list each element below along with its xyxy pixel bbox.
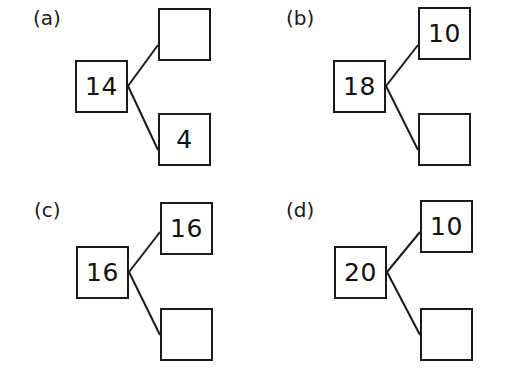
bond-child-top-value-c: 16 [170,216,203,241]
number-bond-panel-b: (b) 18 10 [253,0,505,190]
bond-child-top-box-a[interactable] [158,8,211,61]
bond-child-bottom-box-d[interactable] [420,308,473,361]
bond-child-bottom-box-b[interactable] [418,113,471,166]
bond-parent-box-b[interactable]: 18 [333,60,386,113]
bond-parent-value-b: 18 [343,74,376,99]
bond-child-top-box-c[interactable]: 16 [160,202,213,255]
bond-child-bottom-box-c[interactable] [160,308,213,361]
bond-child-top-value-b: 10 [428,21,461,46]
number-bond-panel-c: (c) 16 16 [0,190,252,379]
bond-parent-box-c[interactable]: 16 [76,246,129,299]
bond-parent-value-d: 20 [344,260,377,285]
bond-child-top-value-d: 10 [430,214,463,239]
bond-parent-value-a: 14 [85,74,118,99]
bond-child-top-box-b[interactable]: 10 [418,7,471,60]
worksheet-canvas: (a) 14 4 (b) 18 10 (c) [0,0,505,379]
bond-child-bottom-value-a: 4 [176,127,192,152]
bond-parent-box-a[interactable]: 14 [75,60,128,113]
bond-parent-box-d[interactable]: 20 [334,246,387,299]
bond-child-bottom-box-a[interactable]: 4 [158,113,211,166]
bond-parent-value-c: 16 [86,260,119,285]
bond-child-top-box-d[interactable]: 10 [420,200,473,253]
number-bond-panel-d: (d) 20 10 [253,190,505,379]
number-bond-panel-a: (a) 14 4 [0,0,252,190]
